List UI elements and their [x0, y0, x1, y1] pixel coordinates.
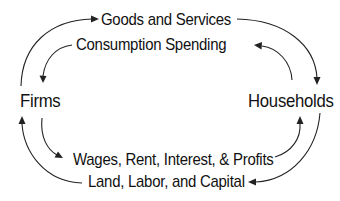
households-node: Households: [248, 91, 334, 110]
arrow-firms-to-wages: [42, 118, 63, 158]
circular-flow-diagram: Goods and Services Consumption Spending …: [0, 0, 340, 201]
consumption-spending-label: Consumption Spending: [76, 36, 226, 53]
factor-payments-label: Wages, Rent, Interest, & Profits: [73, 151, 274, 168]
arrow-wages-to-households: [275, 116, 304, 157]
arrow-goods-to-households: [237, 19, 321, 85]
arrow-spending-to-firms: [40, 45, 73, 83]
arrow-households-to-spending: [254, 42, 292, 80]
goods-and-services-label: Goods and Services: [101, 11, 231, 28]
firms-node: Firms: [20, 91, 60, 110]
factors-of-production-label: Land, Labor, and Capital: [88, 173, 245, 190]
